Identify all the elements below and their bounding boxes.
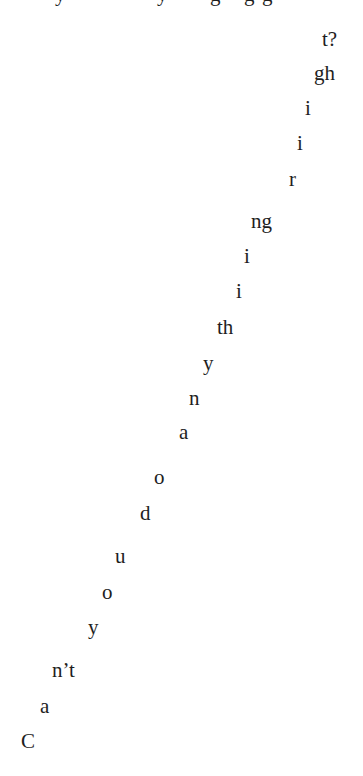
- text-fragment: r: [289, 169, 296, 190]
- clipped-glyph: g: [244, 0, 255, 5]
- text-fragment: y: [203, 353, 214, 374]
- clipped-glyph: g: [262, 0, 273, 5]
- text-fragment: i: [236, 281, 242, 302]
- clipped-top-text-line: y y g g g: [0, 0, 363, 13]
- text-fragment: o: [154, 467, 165, 488]
- text-fragment: a: [179, 422, 188, 443]
- text-fragment: ng: [251, 211, 272, 232]
- text-fragment: o: [102, 582, 113, 603]
- text-fragment: n’t: [52, 660, 75, 681]
- text-fragment: n: [189, 388, 200, 409]
- text-fragment: i: [244, 246, 250, 267]
- page: { "top_clipped_line": { "fragments": ["y…: [0, 0, 363, 776]
- clipped-glyph: y: [55, 0, 66, 5]
- text-fragment: t?: [322, 29, 337, 50]
- text-fragment: gh: [314, 63, 335, 84]
- text-fragment: y: [88, 617, 99, 638]
- text-fragment: d: [140, 503, 151, 524]
- text-fragment: th: [217, 317, 233, 338]
- clipped-glyph: g: [210, 0, 221, 5]
- text-fragment: i: [297, 133, 303, 154]
- text-fragment: C: [21, 731, 35, 752]
- clipped-glyph: y: [157, 0, 168, 5]
- text-fragment: u: [115, 546, 126, 567]
- text-fragment: i: [305, 98, 311, 119]
- text-fragment: a: [40, 696, 49, 717]
